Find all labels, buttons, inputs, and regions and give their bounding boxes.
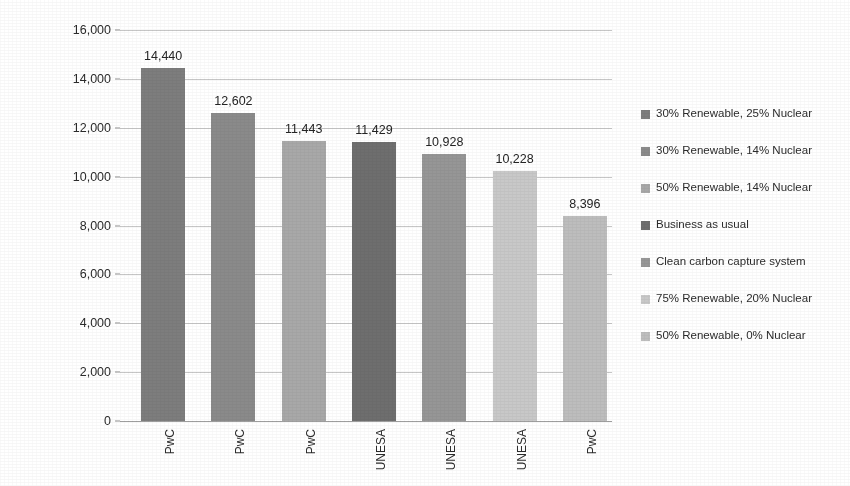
- bar[interactable]: [282, 141, 326, 421]
- y-tick-label: 6,000: [80, 267, 111, 281]
- legend-item[interactable]: 50% Renewable, 0% Nuclear: [641, 328, 846, 344]
- legend-swatch-icon: [641, 110, 650, 119]
- gridline: [120, 421, 612, 422]
- bar[interactable]: [211, 113, 255, 421]
- bar[interactable]: [422, 154, 466, 421]
- bar-chart: Total water withdrawal and consumed per …: [0, 0, 850, 486]
- legend-item[interactable]: 30% Renewable, 25% Nuclear: [641, 106, 846, 122]
- legend-label: Clean carbon capture system: [656, 256, 806, 268]
- bar[interactable]: [141, 68, 185, 421]
- x-axis-label: PwC: [233, 429, 247, 454]
- legend-label: 50% Renewable, 0% Nuclear: [656, 330, 806, 342]
- legend-swatch-icon: [641, 184, 650, 193]
- bar-group[interactable]: 12,602PwC: [211, 30, 255, 421]
- bar-group[interactable]: 11,443PwC: [282, 30, 326, 421]
- bar-value-label: 10,228: [495, 152, 533, 166]
- x-axis-label: PwC: [304, 429, 318, 454]
- x-axis-label: UNESA: [374, 429, 388, 470]
- y-tick-label: 0: [104, 414, 111, 428]
- plot-area: 02,0004,0006,0008,00010,00012,00014,0001…: [120, 30, 612, 421]
- bar-value-label: 11,443: [285, 122, 322, 136]
- legend-item[interactable]: 75% Renewable, 20% Nuclear: [641, 291, 846, 307]
- bar[interactable]: [493, 171, 537, 421]
- bar-group[interactable]: 10,228UNESA: [493, 30, 537, 421]
- x-axis-label: PwC: [585, 429, 599, 454]
- y-tick-label: 8,000: [80, 219, 111, 233]
- bar-value-label: 12,602: [214, 94, 252, 108]
- y-tick-label: 16,000: [73, 23, 111, 37]
- legend-swatch-icon: [641, 258, 650, 267]
- y-tick-label: 4,000: [80, 316, 111, 330]
- bar-value-label: 10,928: [425, 135, 463, 149]
- y-tick-label: 14,000: [73, 72, 111, 86]
- y-tick-label: 2,000: [80, 365, 111, 379]
- legend-swatch-icon: [641, 147, 650, 156]
- bar-value-label: 14,440: [144, 49, 182, 63]
- legend-item[interactable]: 30% Renewable, 14% Nuclear: [641, 143, 846, 159]
- legend-label: 30% Renewable, 25% Nuclear: [656, 108, 812, 120]
- x-axis-label: PwC: [163, 429, 177, 454]
- y-axis-title: Total water withdrawal and consumed per …: [12, 0, 46, 34]
- y-tick-label: 12,000: [73, 121, 111, 135]
- legend-item[interactable]: 50% Renewable, 14% Nuclear: [641, 180, 846, 196]
- bar-group[interactable]: 11,429UNESA: [352, 30, 396, 421]
- legend-swatch-icon: [641, 295, 650, 304]
- chart-legend: 30% Renewable, 25% Nuclear30% Renewable,…: [641, 106, 846, 365]
- legend-item[interactable]: Clean carbon capture system: [641, 254, 846, 270]
- y-tick-label: 10,000: [73, 170, 111, 184]
- bar[interactable]: [563, 216, 607, 421]
- legend-swatch-icon: [641, 332, 650, 341]
- x-axis-label: UNESA: [444, 429, 458, 470]
- bar-group[interactable]: 10,928UNESA: [422, 30, 466, 421]
- bar-group[interactable]: 8,396PwC: [563, 30, 607, 421]
- x-axis-label: UNESA: [515, 429, 529, 470]
- legend-label: 30% Renewable, 14% Nuclear: [656, 145, 812, 157]
- bars: 14,440PwC12,602PwC11,443PwC11,429UNESA10…: [120, 30, 612, 421]
- legend-item[interactable]: Business as usual: [641, 217, 846, 233]
- legend-swatch-icon: [641, 221, 650, 230]
- legend-label: Business as usual: [656, 219, 749, 231]
- bar-value-label: 8,396: [569, 197, 600, 211]
- bar-value-label: 11,429: [355, 123, 392, 137]
- bar[interactable]: [352, 142, 396, 421]
- legend-label: 75% Renewable, 20% Nuclear: [656, 293, 812, 305]
- legend-label: 50% Renewable, 14% Nuclear: [656, 182, 812, 194]
- bar-group[interactable]: 14,440PwC: [141, 30, 185, 421]
